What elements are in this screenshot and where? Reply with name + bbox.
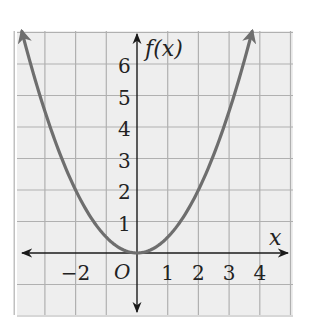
y-tick-label: 4 xyxy=(118,117,131,141)
plot-background xyxy=(17,31,293,315)
x-axis-label: x xyxy=(269,225,282,250)
y-tick-label: 1 xyxy=(118,212,131,236)
y-tick-label: 6 xyxy=(118,54,131,78)
x-tick-label: 1 xyxy=(161,261,174,285)
x-tick-label: 2 xyxy=(192,261,205,285)
y-tick-label: 5 xyxy=(118,86,131,110)
parabola-graph: 123456 −21234 O x f(x) xyxy=(0,0,310,325)
y-axis-label: f(x) xyxy=(143,36,183,61)
x-tick-label: 4 xyxy=(253,261,266,285)
x-tick-label: 3 xyxy=(223,261,236,285)
y-tick-label: 2 xyxy=(118,180,131,204)
x-tick-label: −2 xyxy=(61,261,90,285)
y-tick-label: 3 xyxy=(118,149,131,173)
origin-label: O xyxy=(114,260,130,284)
